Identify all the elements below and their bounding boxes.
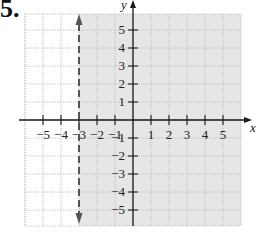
inequality-graph: xy−5−4−3−2−112345−5−4−3−2−112345 [0,0,256,232]
y-axis-arrow-icon [130,0,136,8]
y-tick-label: −1 [111,130,125,145]
y-tick-label: 5 [119,22,126,37]
y-tick-label: 4 [119,40,126,55]
x-tick-label: −5 [36,127,50,142]
x-tick-label: 1 [148,127,155,142]
y-tick-label: 1 [119,94,126,109]
x-tick-label: −2 [90,127,104,142]
x-tick-label: 3 [184,127,191,142]
y-tick-label: −5 [111,202,125,217]
x-tick-label: 2 [166,127,173,142]
y-tick-label: 3 [119,58,126,73]
x-tick-label: 4 [202,127,209,142]
x-tick-label: −4 [54,127,68,142]
y-tick-label: −4 [111,184,125,199]
y-tick-label: −3 [111,166,125,181]
y-axis-label: y [119,0,127,12]
y-tick-label: 2 [119,76,126,91]
x-tick-label: 5 [220,127,227,142]
y-tick-label: −2 [111,148,125,163]
x-axis-label: x [249,120,256,135]
